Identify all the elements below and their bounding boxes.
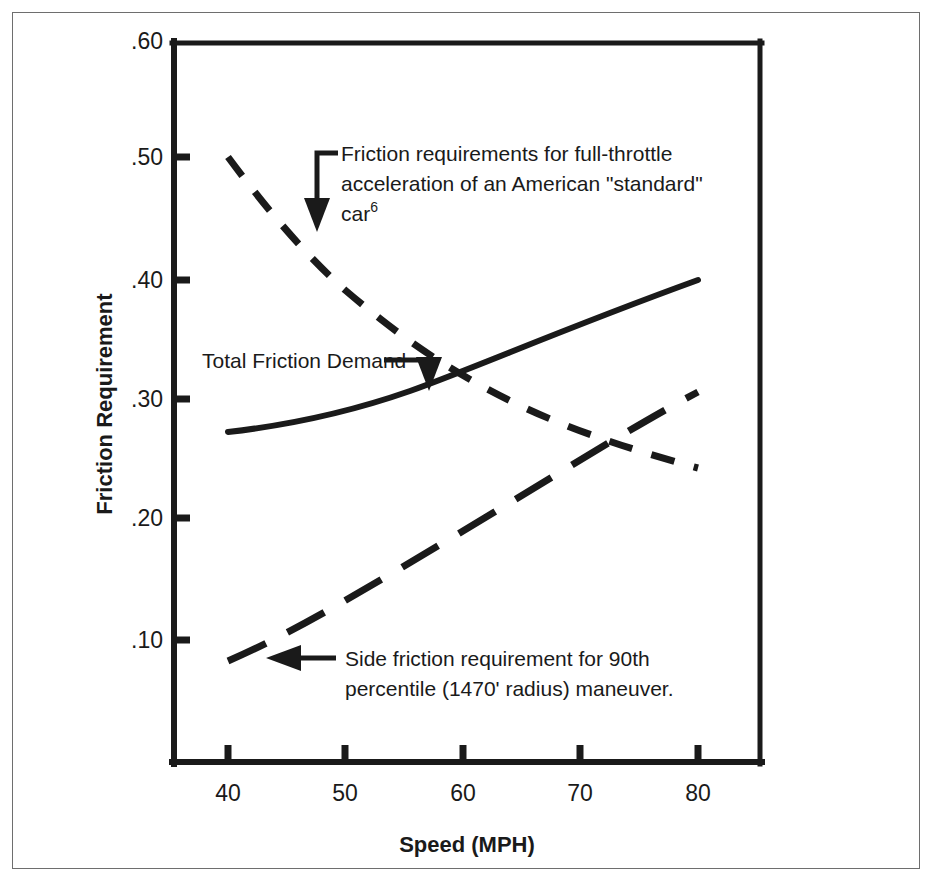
chart-plot: .60 .50 .40 .30 .20 .10 40 50 60 70 80 S…	[0, 0, 934, 883]
annotation-acceleration-arrowhead	[304, 198, 330, 232]
figure-container: .60 .50 .40 .30 .20 .10 40 50 60 70 80 S…	[0, 0, 934, 883]
series-side-friction-curve	[228, 392, 698, 661]
annotation-acceleration: Friction requirements for full-throttle …	[304, 142, 703, 232]
annotation-acceleration-line3: car6	[341, 199, 378, 225]
annotation-side-line2: percentile (1470' radius) maneuver.	[345, 677, 674, 700]
annotation-total-label: Total Friction Demand	[202, 349, 406, 372]
x-axis-title: Speed (MPH)	[399, 832, 535, 857]
x-tick-label-80: 80	[685, 780, 711, 806]
y-tick-label-0.30: .30	[131, 386, 163, 412]
annotation-acceleration-line2: acceleration of an American "standard"	[341, 172, 703, 195]
x-tick-label-50: 50	[332, 780, 358, 806]
y-tick-label-0.20: .20	[131, 505, 163, 531]
annotation-side-arrowhead	[266, 645, 301, 671]
y-tick-label-0.10: .10	[131, 627, 163, 653]
annotation-acceleration-line1: Friction requirements for full-throttle	[341, 142, 672, 165]
annotation-acceleration-footnote-marker: 6	[370, 199, 378, 215]
y-tick-label-0.50: .50	[131, 144, 163, 170]
x-tick-label-40: 40	[215, 780, 241, 806]
x-axis-tick-labels: 40 50 60 70 80	[215, 780, 711, 806]
y-axis-title: Friction Requirement	[92, 293, 117, 515]
annotation-side-line1: Side friction requirement for 90th	[345, 647, 650, 670]
annotation-total-friction-demand: Total Friction Demand	[202, 349, 442, 391]
annotation-acceleration-leader	[317, 153, 338, 200]
x-tick-label-70: 70	[567, 780, 593, 806]
x-tick-label-60: 60	[450, 780, 476, 806]
y-tick-label-0.60: .60	[131, 28, 163, 54]
y-tick-label-0.40: .40	[131, 267, 163, 293]
y-axis-tick-labels: .60 .50 .40 .30 .20 .10	[131, 28, 163, 653]
annotation-side-friction: Side friction requirement for 90th perce…	[266, 645, 674, 700]
annotation-acceleration-line3-text: car	[341, 202, 370, 225]
